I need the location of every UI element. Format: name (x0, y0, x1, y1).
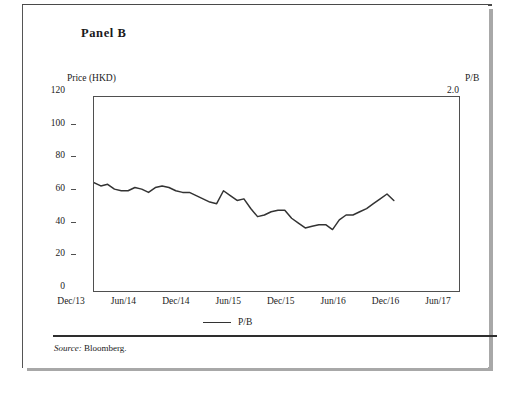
source-label: Source: (54, 343, 82, 353)
left-axis-tick-0: 0 (37, 281, 65, 291)
source-note: Source: Bloomberg. (54, 343, 127, 353)
left-axis-tickmark (71, 156, 76, 157)
chart-legend: P/B (203, 317, 252, 327)
left-axis-tickmark (71, 124, 76, 125)
x-axis-tick-Dec-13: Dec/13 (41, 296, 101, 306)
left-axis-tickmark (71, 222, 76, 223)
legend-line-swatch (203, 322, 231, 323)
left-axis-tick-80: 80 (37, 150, 65, 160)
x-axis-tick-Jun-15: Jun/15 (198, 296, 258, 306)
left-axis-tick-100: 100 (37, 118, 65, 128)
x-axis-tick-Jun-17: Jun/17 (408, 296, 468, 306)
panel-title: Panel B (81, 26, 127, 41)
source-value: Bloomberg. (84, 343, 127, 353)
x-axis-tick-Dec-16: Dec/16 (356, 296, 416, 306)
plot-area (93, 96, 460, 292)
left-axis-tickmark (71, 254, 76, 255)
x-axis-tick-Dec-14: Dec/14 (146, 296, 206, 306)
left-axis-tick-40: 40 (37, 216, 65, 226)
right-axis-tick-2.0: 2.0 (447, 85, 475, 95)
source-divider (53, 335, 497, 337)
x-axis-tick-Jun-14: Jun/14 (93, 296, 153, 306)
x-axis-tick-Dec-15: Dec/15 (251, 296, 311, 306)
left-axis-tick-60: 60 (37, 183, 65, 193)
left-axis-tick-120: 120 (37, 85, 65, 95)
x-axis-tick-Jun-16: Jun/16 (303, 296, 363, 306)
legend-label-pb: P/B (238, 317, 252, 327)
figure-shadow-right (489, 9, 493, 371)
left-axis-tick-20: 20 (37, 248, 65, 258)
left-axis-tickmark (71, 189, 76, 190)
figure-container: Panel B Price (HKD) P/B 020406080100120 … (22, 5, 488, 368)
right-axis-title: P/B (465, 73, 479, 83)
series-polyline (94, 183, 394, 230)
left-axis-title: Price (HKD) (67, 73, 116, 83)
price-pb-line-series (94, 97, 459, 291)
